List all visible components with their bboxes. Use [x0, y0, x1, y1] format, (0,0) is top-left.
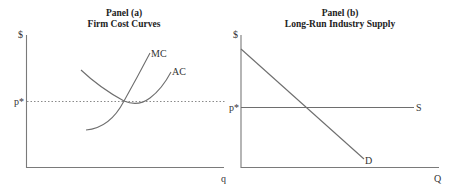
supply-label: S	[416, 102, 422, 113]
mc-curve	[86, 53, 150, 130]
panel-a-x-axis-label: q	[221, 173, 226, 184]
ac-label: AC	[172, 66, 186, 77]
panel-b-price-label: p*	[229, 102, 239, 113]
panel-b: Panel (b) Long-Run Industry Supply $ Q S…	[229, 8, 442, 184]
panel-b-axes	[241, 35, 439, 168]
panel-a-price-label: p*	[14, 96, 24, 107]
demand-label: D	[365, 155, 372, 166]
diagram-canvas: Panel (a) Firm Cost Curves $ q p* AC MC …	[0, 0, 456, 190]
panel-b-title: Panel (b)	[322, 8, 359, 19]
panel-b-x-axis-label: Q	[434, 173, 442, 184]
mc-label: MC	[151, 48, 167, 59]
panel-a-y-axis-label: $	[18, 29, 23, 40]
panel-a-subtitle: Firm Cost Curves	[88, 19, 161, 29]
panel-a: Panel (a) Firm Cost Curves $ q p* AC MC	[14, 8, 226, 184]
demand-curve	[241, 49, 364, 159]
panel-a-title: Panel (a)	[106, 8, 142, 19]
panel-b-y-axis-label: $	[233, 29, 238, 40]
panel-b-subtitle: Long-Run Industry Supply	[285, 19, 396, 29]
